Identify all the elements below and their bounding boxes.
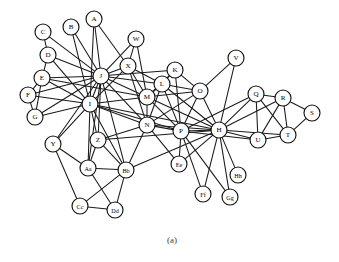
graph-edge — [60, 149, 82, 164]
node-label: Bb — [122, 167, 129, 174]
graph-edge — [58, 110, 84, 138]
node-label: Ff — [200, 191, 206, 198]
graph-node-Q[interactable]: Q — [248, 86, 264, 102]
node-label: Gg — [226, 194, 234, 201]
graph-edge — [176, 78, 180, 123]
graph-node-X[interactable]: X — [120, 58, 136, 74]
node-label: G — [32, 113, 37, 121]
graph-edge — [206, 63, 230, 85]
node-label: P — [179, 127, 183, 135]
graph-edge — [44, 63, 46, 71]
graph-edge — [262, 105, 279, 133]
graph-node-Ee[interactable]: Ee — [171, 156, 187, 172]
graph-node-J[interactable]: J — [93, 68, 109, 84]
node-label: H — [216, 126, 221, 134]
graph-node-Aa[interactable]: Aa — [80, 160, 96, 176]
node-label: T — [286, 131, 291, 139]
node-label: B — [69, 23, 74, 31]
node-layer: ABCDEFGHIJKLMNOPQRSTUVWXYZAaBbCcDdEeFfGg… — [20, 11, 320, 218]
graph-edge — [220, 138, 228, 189]
graph-node-B[interactable]: B — [63, 19, 79, 35]
node-label: S — [310, 109, 314, 117]
node-label: O — [197, 87, 202, 95]
graph-node-G[interactable]: G — [27, 109, 43, 125]
graph-node-Dd[interactable]: Dd — [107, 202, 123, 218]
node-label: M — [144, 93, 151, 101]
graph-edge — [30, 103, 32, 110]
node-label: F — [26, 91, 30, 99]
graph-node-N[interactable]: N — [139, 117, 155, 133]
graph-node-A[interactable]: A — [86, 11, 102, 27]
graph-node-M[interactable]: M — [139, 89, 155, 105]
figure-panel: ABCDEFGHIJKLMNOPQRSTUVWXYZAaBbCcDdEeFfGg… — [0, 0, 339, 262]
graph-edge — [33, 84, 37, 89]
graph-edge — [294, 118, 306, 129]
node-label: N — [144, 121, 149, 129]
graph-node-Y[interactable]: Y — [45, 136, 61, 152]
graph-edge — [155, 92, 192, 96]
graph-node-S[interactable]: S — [304, 105, 320, 121]
graph-node-L[interactable]: L — [154, 76, 170, 92]
graph-node-C[interactable]: C — [35, 24, 51, 40]
graph-edge — [117, 178, 124, 203]
graph-edge — [284, 106, 287, 127]
graph-node-Cc[interactable]: Cc — [72, 198, 88, 214]
graph-edge — [45, 40, 47, 47]
graph-edge — [86, 175, 119, 201]
graph-node-R[interactable]: R — [275, 90, 291, 106]
graph-edge — [99, 25, 124, 59]
graph-node-Bb[interactable]: Bb — [118, 162, 134, 178]
node-label: Dd — [111, 207, 119, 214]
graph-node-Gg[interactable]: Gg — [222, 189, 238, 205]
graph-node-F[interactable]: F — [20, 87, 36, 103]
graph-edge — [165, 91, 178, 123]
graph-node-W[interactable]: W — [128, 31, 144, 47]
graph-edge — [98, 106, 174, 128]
graph-edge — [264, 95, 275, 97]
graph-edge — [50, 76, 93, 77]
graph-edge — [135, 70, 155, 81]
graph-edge — [130, 47, 133, 59]
graph-edge — [95, 27, 100, 68]
node-label: Aa — [84, 165, 91, 172]
node-label: Z — [96, 136, 100, 144]
node-label: A — [91, 15, 97, 23]
graph-edge — [205, 138, 217, 186]
node-label: V — [233, 54, 239, 62]
graph-edge — [103, 84, 124, 163]
node-label: D — [45, 51, 50, 59]
graph-node-Z[interactable]: Z — [90, 132, 106, 148]
node-label: W — [133, 35, 140, 43]
graph-node-I[interactable]: I — [82, 96, 98, 112]
graph-edge — [91, 148, 96, 161]
graph-node-Hh[interactable]: Hh — [230, 167, 246, 183]
graph-edge — [106, 127, 140, 137]
graph-edge — [88, 112, 90, 160]
graph-node-D[interactable]: D — [40, 47, 56, 63]
node-label: Hh — [234, 172, 242, 179]
graph-edge — [181, 75, 194, 86]
node-label: R — [281, 94, 286, 102]
graph-edge — [221, 66, 234, 122]
graph-node-P[interactable]: P — [173, 123, 189, 139]
node-label: Y — [50, 140, 55, 148]
graph-node-E[interactable]: E — [34, 70, 50, 86]
node-label: X — [125, 62, 130, 70]
figure-caption: (a) — [167, 235, 177, 245]
graph-edge — [88, 207, 107, 209]
edge-layer — [30, 25, 306, 209]
graph-node-T[interactable]: T — [280, 127, 296, 143]
node-label: L — [160, 80, 164, 88]
graph-edge — [36, 86, 40, 109]
graph-edge — [106, 131, 211, 140]
graph-node-U[interactable]: U — [250, 132, 266, 148]
graph-node-Ff[interactable]: Ff — [195, 186, 211, 202]
graph-node-V[interactable]: V — [228, 50, 244, 66]
graph-edge — [290, 102, 305, 110]
graph-node-H[interactable]: H — [211, 122, 227, 138]
node-label: C — [41, 28, 46, 36]
graph-node-K[interactable]: K — [167, 62, 183, 78]
node-label: Q — [253, 90, 258, 98]
graph-edge — [170, 85, 192, 89]
graph-node-O[interactable]: O — [192, 83, 208, 99]
